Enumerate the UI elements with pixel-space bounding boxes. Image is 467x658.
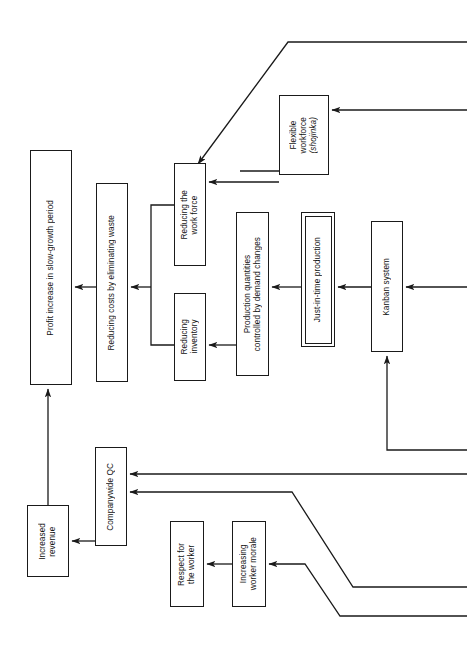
node-inner-frame: Just-in-time production	[305, 216, 332, 344]
node-label-reducing-inventory: Reducing inventory	[180, 319, 200, 354]
connector-diagonal-to-morale	[269, 564, 467, 616]
node-label-kanban-system: Kanban system	[382, 258, 392, 316]
node-label-flexible-workforce: Flexible workforce (shojinka)	[289, 117, 319, 154]
node-profit-increase[interactable]: Profit increase in slow-growth period	[30, 150, 72, 385]
node-production-quantities[interactable]: Production quantities controlled by dema…	[236, 212, 269, 376]
node-label-respect-for-the-worker: Respect for the worker	[177, 543, 197, 586]
node-label-companywide-qc: Companywide QC	[106, 463, 116, 531]
node-reducing-work-force[interactable]: Reducing the work force	[174, 163, 206, 266]
connector-fork-bracket-top	[151, 205, 174, 287]
node-reducing-costs[interactable]: Reducing costs by eliminating waste	[96, 183, 128, 382]
node-companywide-qc[interactable]: Companywide QC	[95, 447, 127, 546]
node-label-just-in-time-production: Just-in-time production	[313, 237, 323, 322]
node-label-production-quantities: Production quantities controlled by dema…	[243, 237, 263, 351]
node-label-increased-revenue: Increased revenue	[38, 523, 58, 560]
node-just-in-time-production[interactable]: Just-in-time production	[301, 212, 335, 347]
node-label-increasing-worker-morale: Increasing worker morale	[239, 537, 259, 590]
node-label-profit-increase: Profit increase in slow-growth period	[46, 200, 56, 336]
connector-bottom-rail-to-kanban	[387, 356, 467, 450]
node-reducing-inventory[interactable]: Reducing inventory	[174, 293, 206, 381]
connector-fork-bracket-bottom	[151, 287, 174, 345]
node-label-reducing-costs: Reducing costs by eliminating waste	[107, 215, 117, 350]
node-label-reducing-work-force: Reducing the work force	[180, 190, 200, 239]
flowchart-canvas: Profit increase in slow-growth period Re…	[0, 0, 467, 658]
node-increasing-worker-morale[interactable]: Increasing worker morale	[232, 521, 266, 607]
node-respect-for-the-worker[interactable]: Respect for the worker	[170, 521, 204, 607]
node-flexible-workforce[interactable]: Flexible workforce (shojinka)	[279, 95, 329, 175]
connector-top-diagonal-to-work-force	[198, 42, 467, 164]
node-increased-revenue[interactable]: Increased revenue	[27, 505, 69, 577]
node-kanban-system[interactable]: Kanban system	[371, 221, 403, 352]
